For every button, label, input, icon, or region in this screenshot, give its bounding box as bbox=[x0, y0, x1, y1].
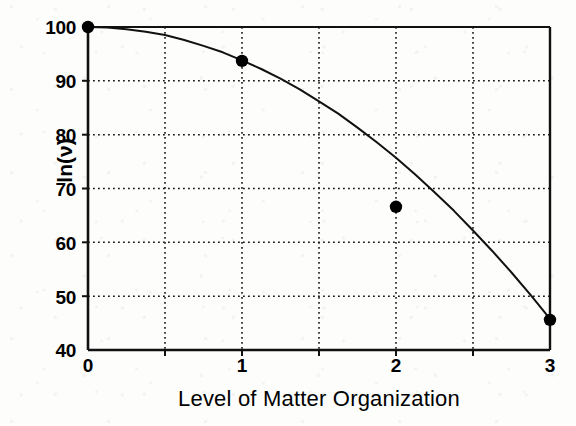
data-point-marker bbox=[544, 314, 556, 326]
xtick-label-3: 3 bbox=[530, 356, 570, 375]
xtick-label-0: 0 bbox=[68, 356, 108, 375]
data-point-marker bbox=[82, 21, 94, 33]
axis-ticks bbox=[82, 81, 473, 356]
x-axis-title: Level of Matter Organization bbox=[88, 388, 550, 410]
ytick-label-60: 60 bbox=[14, 234, 76, 253]
data-point-marker bbox=[390, 201, 402, 213]
xtick-label-2: 2 bbox=[376, 356, 416, 375]
grid-lines bbox=[88, 27, 550, 350]
ytick-label-100: 100 bbox=[14, 18, 76, 37]
ytick-label-50: 50 bbox=[14, 288, 76, 307]
chart-figure: 100 90 80 70 60 50 40 0 1 2 3 ln(ν) Leve… bbox=[0, 0, 576, 426]
data-point-marker bbox=[236, 55, 248, 67]
y-axis-title: ln(ν) bbox=[54, 101, 75, 221]
ytick-label-90: 90 bbox=[14, 72, 76, 91]
xtick-label-1: 1 bbox=[222, 356, 262, 375]
ytick-label-40: 40 bbox=[14, 341, 76, 360]
